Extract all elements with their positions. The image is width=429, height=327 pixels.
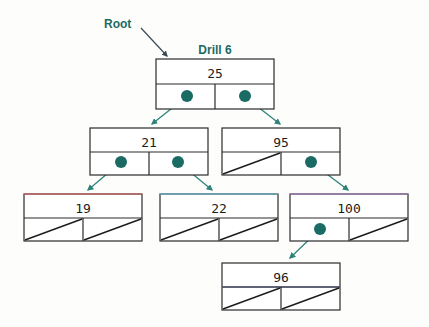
node-25-key: 25 xyxy=(207,66,223,81)
node-22-key: 22 xyxy=(211,201,227,216)
node-25[interactable]: 25 xyxy=(156,59,274,109)
node-95-right-pointer-dot[interactable] xyxy=(305,156,317,168)
node-21-left-pointer-dot[interactable] xyxy=(115,156,127,168)
node-21[interactable]: 21 xyxy=(90,128,208,175)
node-21-right-pointer-dot[interactable] xyxy=(172,156,184,168)
node-100-left-pointer-dot[interactable] xyxy=(314,223,326,235)
node-22[interactable]: 22 xyxy=(160,194,278,241)
root-pointer-arrow xyxy=(141,28,167,56)
node-25-right-pointer-dot[interactable] xyxy=(239,90,251,102)
node-100-key: 100 xyxy=(337,201,360,216)
root-label: Root xyxy=(104,17,131,31)
root-annotation: Root xyxy=(104,17,167,56)
binary-tree-diagram: Root Drill 6 25 21 95 xyxy=(0,0,429,327)
node-25-left-pointer-dot[interactable] xyxy=(181,90,193,102)
node-21-key: 21 xyxy=(141,135,157,150)
node-96[interactable]: 96 xyxy=(222,263,340,310)
node-96-key: 96 xyxy=(273,270,289,285)
node-19-key: 19 xyxy=(75,201,91,216)
node-100[interactable]: 100 xyxy=(290,194,408,241)
diagram-canvas: Root Drill 6 25 21 95 xyxy=(0,0,429,327)
node-95[interactable]: 95 xyxy=(222,128,340,175)
figure-title: Drill 6 xyxy=(198,43,232,57)
node-19[interactable]: 19 xyxy=(24,194,142,241)
node-95-key: 95 xyxy=(273,135,289,150)
